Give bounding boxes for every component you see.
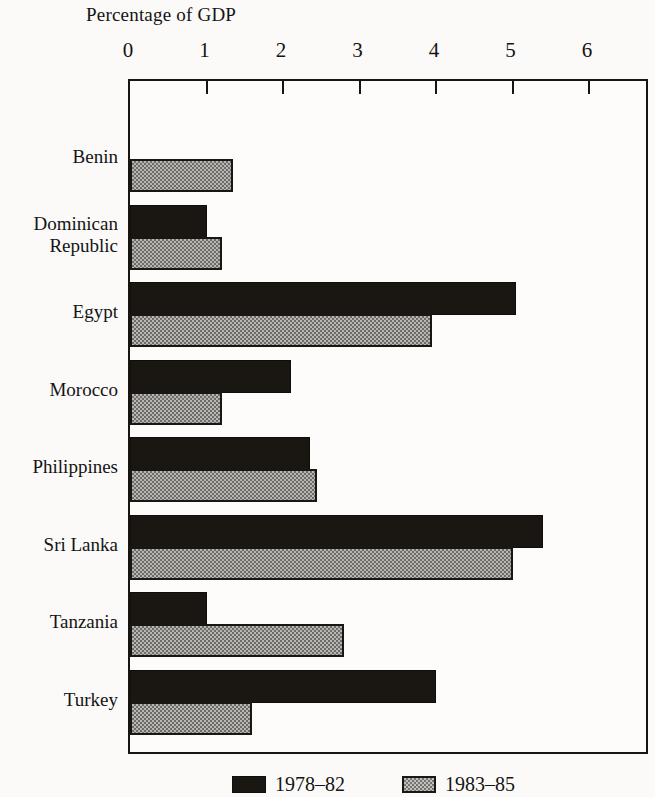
x-tick-label: 4 xyxy=(429,36,440,64)
x-tick-label: 6 xyxy=(582,36,593,64)
bar xyxy=(130,159,233,192)
x-tick-label: 3 xyxy=(352,36,363,64)
x-tick-label: 1 xyxy=(199,36,210,64)
bar xyxy=(130,314,432,347)
x-tick-label: 2 xyxy=(276,36,287,64)
x-tick-label: 0 xyxy=(123,36,134,64)
category-label: Egypt xyxy=(73,301,118,323)
category-label: Benin xyxy=(73,146,118,168)
x-tick-label: 5 xyxy=(505,36,516,64)
bar xyxy=(130,624,344,657)
bar xyxy=(130,282,516,315)
solid-black-swatch xyxy=(232,776,266,793)
chart-legend: 1978–821983–85 xyxy=(0,772,655,797)
chart-axis-title: Percentage of GDP xyxy=(86,4,236,26)
legend-label: 1983–85 xyxy=(445,773,515,796)
bar xyxy=(130,702,252,735)
x-axis-tick-labels: 01234567 xyxy=(0,36,655,64)
bar xyxy=(130,592,207,625)
category-label: Turkey xyxy=(64,689,118,711)
legend-entry: 1978–82 xyxy=(232,772,345,797)
legend-label: 1978–82 xyxy=(275,773,345,796)
legend-entry: 1983–85 xyxy=(402,772,515,797)
bar xyxy=(130,237,222,270)
bar xyxy=(130,670,436,703)
chart-figure: Percentage of GDP 01234567 BeninDominica… xyxy=(0,0,655,797)
bar xyxy=(130,392,222,425)
bars-layer xyxy=(130,81,646,752)
category-label: Morocco xyxy=(49,379,118,401)
bar xyxy=(130,437,310,470)
bar xyxy=(130,469,317,502)
category-label: Tanzania xyxy=(50,611,118,633)
bar xyxy=(130,360,291,393)
category-axis-labels: BeninDominican RepublicEgyptMoroccoPhili… xyxy=(0,79,122,754)
bar xyxy=(130,515,543,548)
category-label: Dominican Republic xyxy=(34,213,118,257)
category-label: Sri Lanka xyxy=(44,534,118,556)
bar xyxy=(130,547,513,580)
category-label: Philippines xyxy=(32,456,118,478)
bar xyxy=(130,205,207,238)
plot-area xyxy=(128,79,648,754)
stippled-gray-swatch xyxy=(402,776,436,793)
